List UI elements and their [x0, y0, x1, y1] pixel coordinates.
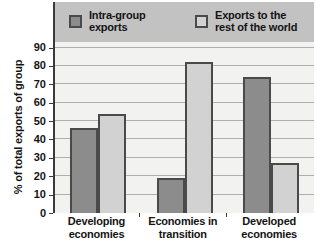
x-tick-mark: [226, 213, 227, 217]
y-tick-mark: [49, 195, 53, 196]
x-category-label: Developed economies: [226, 215, 313, 241]
bar-rest-of-world: [98, 114, 126, 213]
y-tick-label: 20: [14, 170, 46, 183]
gridline: [55, 47, 314, 48]
y-tick-label: 10: [14, 188, 46, 201]
legend-swatch-icon: [195, 15, 208, 28]
y-tick-label: 0: [14, 207, 46, 220]
bar-intra-group: [157, 178, 185, 213]
bar-intra-group: [70, 128, 98, 213]
bar-chart: % of total exports of group Intra-group …: [0, 0, 316, 244]
x-category-label: Economies in transition: [139, 215, 226, 241]
bar-rest-of-world: [185, 62, 213, 213]
plot-area: [55, 42, 314, 213]
y-tick-label: 80: [14, 59, 46, 72]
y-tick-mark: [49, 121, 53, 122]
y-tick-mark: [49, 84, 53, 85]
y-tick-mark: [49, 158, 53, 159]
y-tick-mark: [49, 213, 53, 214]
y-tick-mark: [49, 103, 53, 104]
y-tick-label: 50: [14, 115, 46, 128]
legend-entry: Exports to the rest of the world: [195, 9, 307, 34]
legend-label: Exports to the rest of the world: [215, 9, 307, 34]
legend-swatch-icon: [69, 15, 82, 28]
y-tick-mark: [49, 66, 53, 67]
legend-entry: Intra-group exports: [69, 9, 151, 34]
y-tick-mark: [49, 139, 53, 140]
y-tick-mark: [49, 48, 53, 49]
legend-label: Intra-group exports: [89, 9, 151, 34]
y-tick-label: 60: [14, 96, 46, 109]
legend: Intra-group exportsExports to the rest o…: [53, 2, 314, 43]
x-category-label: Developing economies: [53, 215, 140, 241]
y-tick-label: 30: [14, 151, 46, 164]
bar-rest-of-world: [271, 163, 299, 213]
y-tick-label: 40: [14, 133, 46, 146]
x-tick-mark: [139, 213, 140, 217]
y-tick-mark: [49, 176, 53, 177]
y-tick-label: 70: [14, 78, 46, 91]
y-tick-label: 90: [14, 41, 46, 54]
bar-intra-group: [243, 77, 271, 213]
